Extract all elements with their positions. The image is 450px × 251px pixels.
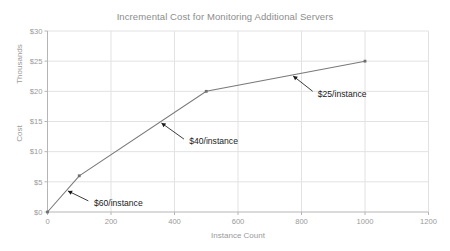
data-point-marker <box>364 60 367 63</box>
annotation-arrowhead <box>293 76 298 80</box>
y-tick-labels: $0$5$10$15$20$25$30 <box>30 27 43 217</box>
annotation-arrowhead <box>161 123 166 127</box>
y-tick-label: $15 <box>30 117 43 126</box>
data-point-marker <box>46 211 49 214</box>
y-tick-label: $20 <box>30 87 43 96</box>
x-tick-label: 800 <box>295 217 308 226</box>
x-tick-labels: 020040060080010001200 <box>45 217 437 226</box>
y-tick-label: $30 <box>30 27 43 36</box>
x-tick-label: 200 <box>105 217 118 226</box>
x-tick-label: 0 <box>45 217 49 226</box>
y-tick-label: $0 <box>34 208 42 217</box>
annotation-label: $25/instance <box>318 89 367 99</box>
x-tick-label: 400 <box>168 217 181 226</box>
axis-lines <box>45 31 429 215</box>
annotations: $60/instance$40/instance$25/instance <box>68 76 367 208</box>
data-point-marker <box>205 90 208 93</box>
annotation-label: $40/instance <box>189 136 238 146</box>
x-tick-label: 1200 <box>420 217 437 226</box>
y-tick-label: $25 <box>30 57 43 66</box>
x-tick-label: 600 <box>232 217 245 226</box>
chart-container: Incremental Cost for Monitoring Addition… <box>0 0 450 251</box>
x-tick-label: 1000 <box>357 217 374 226</box>
y-tick-label: $5 <box>34 178 42 187</box>
annotation-label: $60/instance <box>94 198 143 208</box>
data-point-marker <box>78 174 81 177</box>
y-axis-unit-label: Thousands <box>15 44 24 84</box>
y-axis-title: Cost <box>15 125 24 142</box>
y-tick-label: $10 <box>30 147 43 156</box>
line-chart-plot: $0$5$10$15$20$25$30 02004006008001000120… <box>0 0 450 251</box>
grid-lines <box>48 31 429 212</box>
x-axis-title: Instance Count <box>211 231 266 240</box>
